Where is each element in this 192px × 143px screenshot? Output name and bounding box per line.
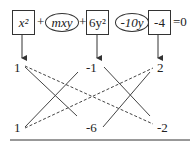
term-6y2-box: 6y² xyxy=(86,10,109,35)
term-neg10y-ellipse: -10y xyxy=(115,13,149,32)
plus-operator-1: + xyxy=(37,15,44,28)
term-mxy-ellipse: mxy xyxy=(45,13,79,32)
bottom-factor-2: -6 xyxy=(86,121,97,134)
term-neg4-box: -4 xyxy=(148,10,171,35)
bottom-factor-3: -2 xyxy=(157,121,168,134)
top-factor-3: 2 xyxy=(157,61,164,74)
term-x2-box: x² xyxy=(12,10,35,35)
bottom-factor-1: 1 xyxy=(14,121,21,134)
top-factor-2: -1 xyxy=(86,61,97,74)
equals-zero: =0 xyxy=(173,15,187,28)
top-factor-1: 1 xyxy=(14,61,21,74)
